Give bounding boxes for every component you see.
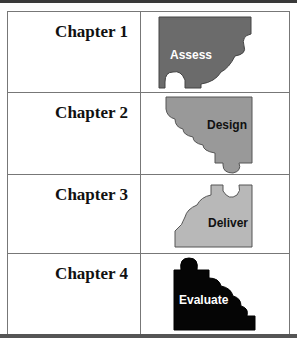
piece-cell: Design (141, 93, 290, 175)
table-row: Chapter 2 Design (8, 93, 290, 175)
table-row: Chapter 3 Deliver (8, 175, 290, 254)
svg-text:Evaluate: Evaluate (179, 293, 229, 307)
piece-cell: Assess (141, 12, 290, 93)
table-row: Chapter 4 Evaluate (8, 254, 290, 335)
chapter-label: Chapter 3 (8, 175, 140, 205)
piece-cell: Evaluate (141, 254, 290, 335)
puzzle-piece-deliver-icon: Deliver (141, 175, 289, 253)
puzzle-piece-assess-icon: Assess (141, 12, 289, 92)
chapter-cell: Chapter 3 (8, 175, 141, 254)
svg-text:Design: Design (207, 118, 247, 132)
bottom-rule (0, 334, 297, 338)
chapter-table: Chapter 1 Assess Chapter 2 Design Chapte… (7, 11, 290, 335)
top-rule (0, 0, 297, 3)
puzzle-piece-evaluate-icon: Evaluate (141, 254, 289, 334)
svg-text:Deliver: Deliver (208, 216, 248, 230)
chapter-label: Chapter 2 (8, 93, 140, 123)
piece-cell: Deliver (141, 175, 290, 254)
chapter-cell: Chapter 2 (8, 93, 141, 175)
puzzle-piece-design-icon: Design (141, 93, 289, 174)
svg-text:Assess: Assess (170, 48, 212, 62)
chapter-label: Chapter 1 (8, 12, 140, 42)
table-row: Chapter 1 Assess (8, 12, 290, 93)
chapter-cell: Chapter 1 (8, 12, 141, 93)
chapter-label: Chapter 4 (8, 254, 140, 284)
chapter-cell: Chapter 4 (8, 254, 141, 335)
